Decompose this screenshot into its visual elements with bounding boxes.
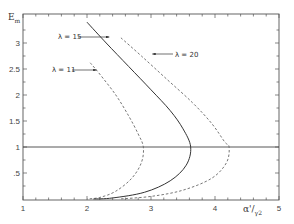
- y-tick-label: 2.5: [9, 65, 21, 74]
- curves: [87, 22, 229, 199]
- plot-frame: [23, 14, 279, 200]
- x-tick-label: 2: [85, 204, 90, 213]
- y-tick-label: .5: [13, 169, 20, 178]
- curve-label: λ = 11: [52, 66, 75, 74]
- x-tick-label: 5: [277, 204, 282, 213]
- y-axis-title: Em: [8, 12, 21, 24]
- y-tick-label: 3: [16, 39, 21, 48]
- curve-label: λ = 20: [175, 51, 198, 59]
- x-tick-label: 4: [213, 204, 218, 213]
- curve-11: [87, 63, 144, 199]
- y-tick-label: 2: [16, 91, 21, 100]
- curve-label: λ = 15: [58, 33, 81, 41]
- curve-20: [119, 38, 229, 199]
- x-tick-label: 1: [21, 204, 26, 213]
- axis-ticks: 12345.511.522.53: [9, 14, 282, 213]
- y-tick-label: 1.5: [9, 117, 21, 126]
- plot-border: [23, 14, 279, 200]
- x-axis-title: α'/γ2: [243, 204, 262, 217]
- curve-annotations: λ = 15λ = 11λ = 20: [52, 33, 198, 74]
- y-tick-label: 1: [16, 143, 21, 152]
- curve-15: [87, 22, 191, 199]
- x-tick-label: 3: [149, 204, 154, 213]
- chart-canvas: 12345.511.522.53 λ = 15λ = 11λ = 20 Em α…: [0, 0, 294, 224]
